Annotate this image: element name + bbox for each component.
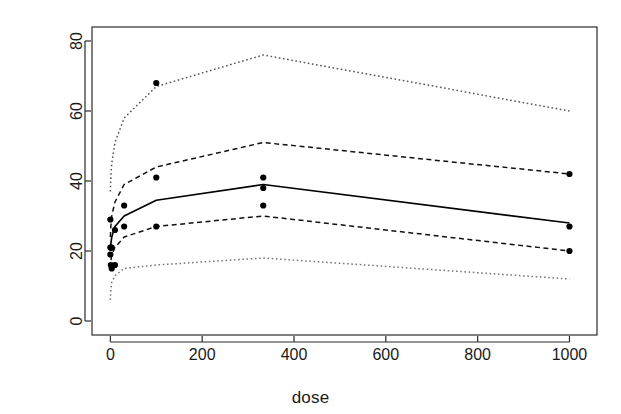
x-axis-tick-label: 1000 [552, 346, 588, 363]
data-point [260, 185, 266, 191]
x-axis-title: dose [0, 388, 621, 408]
data-point [107, 251, 113, 257]
fitted-curves [110, 55, 569, 300]
data-point [153, 223, 159, 229]
data-point [566, 248, 572, 254]
curve-upper-outer-band [110, 55, 569, 192]
y-axis-tick-label: 40 [68, 172, 85, 190]
plot-border [92, 27, 597, 335]
data-point [112, 262, 118, 268]
curve-lower-outer-band [110, 258, 569, 300]
x-axis-tick-label: 0 [106, 346, 115, 363]
data-point [121, 223, 127, 229]
x-axis: 02004006008001000 [106, 336, 587, 363]
data-point [112, 227, 118, 233]
data-point [566, 223, 572, 229]
plot-canvas: 020406080 02004006008001000 [0, 0, 621, 414]
data-point [260, 202, 266, 208]
x-axis-tick-label: 400 [281, 346, 308, 363]
curve-median-fit [110, 185, 569, 252]
x-axis-tick-label: 200 [189, 346, 216, 363]
x-axis-title-text: dose [292, 388, 330, 407]
plot-figure: 020406080 02004006008001000 no. of colon… [0, 0, 621, 414]
y-axis: 020406080 [68, 32, 92, 325]
plot-panel-frame [92, 27, 597, 335]
curve-upper-inner-band [110, 143, 569, 238]
x-axis-tick-label: 600 [372, 346, 399, 363]
data-point [107, 216, 113, 222]
data-point [153, 174, 159, 180]
data-point [566, 171, 572, 177]
x-axis-tick-label: 800 [464, 346, 491, 363]
y-axis-tick-label: 60 [68, 102, 85, 120]
curve-lower-inner-band [110, 216, 569, 269]
y-axis-tick-label: 0 [68, 316, 85, 325]
data-point [260, 174, 266, 180]
y-axis-tick-label: 80 [68, 32, 85, 50]
data-point [121, 202, 127, 208]
data-point [153, 80, 159, 86]
data-point [109, 244, 115, 250]
y-axis-tick-label: 20 [68, 242, 85, 260]
